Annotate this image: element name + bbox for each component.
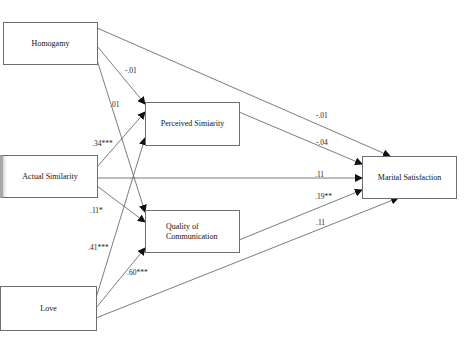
node-actual-similarity-label: Actual Similarity (22, 172, 77, 181)
node-quality-line1: Quality of (166, 222, 199, 231)
arrow-perceived-to-marital (239, 112, 362, 164)
coef-love-perceived: .41*** (88, 243, 109, 252)
node-perceived-similarity: Perceived Simiarity (145, 102, 240, 146)
node-love: Love (0, 286, 97, 331)
node-actual-similarity: Actual Similarity (0, 155, 98, 198)
arrow-quality-to-marital (239, 190, 362, 240)
node-love-label: Love (40, 304, 56, 313)
node-quality-of-communication-label: Quality of Communication (166, 222, 218, 240)
coef-love-quality: .60*** (127, 268, 148, 277)
coef-homogamy-perceived: -.01 (125, 66, 137, 75)
arrow-love-to-marital (96, 198, 398, 318)
arrow-homogamy-to-perceived (97, 46, 145, 104)
arrow-homogamy-to-quality (97, 60, 145, 212)
coef-homogamy-quality: .01 (110, 100, 119, 109)
coef-actual-marital: .11 (315, 170, 324, 179)
coef-actual-perceived: .34*** (92, 139, 113, 148)
arrow-homogamy-to-marital (97, 28, 390, 156)
path-diagram: Homogamy Actual Similarity Love Perceive… (0, 0, 474, 345)
coef-perceived-marital: -.04 (316, 138, 328, 147)
coef-actual-quality: .11* (90, 206, 103, 215)
node-quality-of-communication: Quality of Communication (145, 210, 240, 253)
arrow-love-to-quality (96, 248, 145, 308)
coef-quality-marital: .19** (315, 192, 332, 201)
node-homogamy: Homogamy (3, 22, 98, 65)
coef-love-marital: .11 (316, 218, 325, 227)
node-marital-satisfaction-label: Marital Satisfaction (378, 173, 441, 182)
node-quality-line2: Communication (166, 232, 218, 241)
node-perceived-similarity-label: Perceived Simiarity (161, 119, 224, 128)
node-marital-satisfaction: Marital Satisfaction (362, 156, 457, 199)
node-homogamy-label: Homogamy (32, 39, 70, 48)
coef-homogamy-marital: -.01 (316, 111, 328, 120)
